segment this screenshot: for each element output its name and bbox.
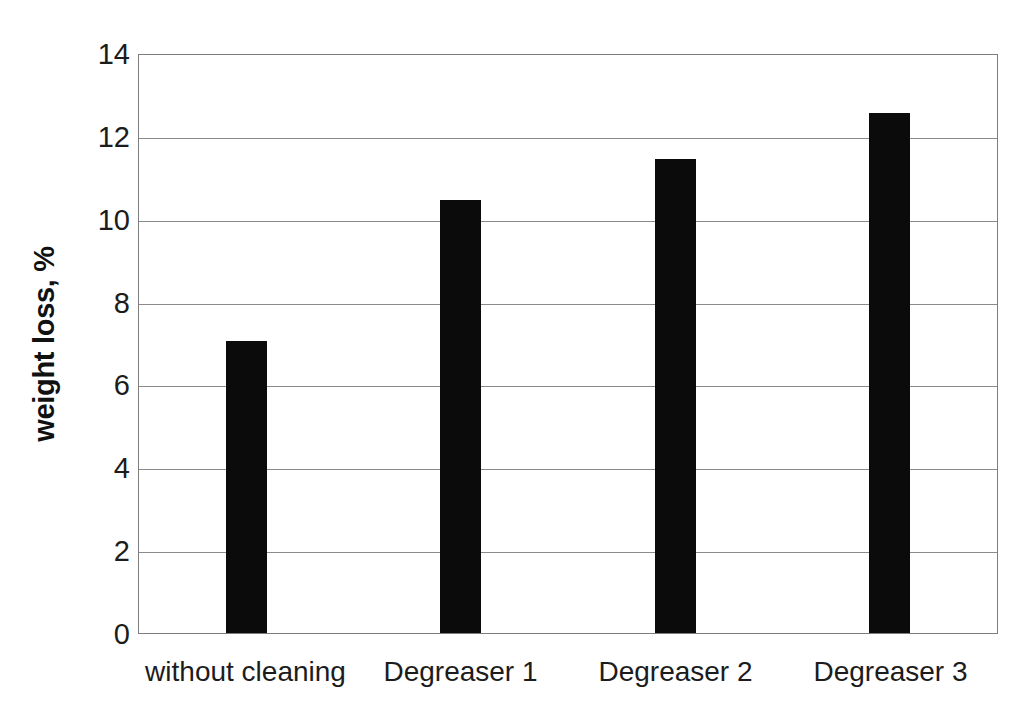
x-axis-tick-labels: without cleaningDegreaser 1Degreaser 2De… <box>138 648 998 696</box>
bar-slot <box>568 55 783 633</box>
y-tick-label: 10 <box>72 205 130 234</box>
bar-slot <box>354 55 569 633</box>
y-tick-label: 8 <box>72 288 130 317</box>
y-tick-label: 2 <box>72 537 130 566</box>
y-tick-label: 14 <box>72 40 130 69</box>
y-axis-tick-labels: 02468101214 <box>72 54 130 634</box>
bar[interactable] <box>869 113 910 633</box>
bar-slot <box>783 55 998 633</box>
bar[interactable] <box>226 341 267 633</box>
plot-area <box>138 54 998 634</box>
bar-slot <box>139 55 354 633</box>
bar[interactable] <box>440 200 481 633</box>
y-axis-title: weight loss, % <box>22 54 66 634</box>
y-tick-label: 12 <box>72 122 130 151</box>
x-tick-label: Degreaser 2 <box>568 648 783 696</box>
bar-series <box>139 55 997 633</box>
bar[interactable] <box>655 159 696 633</box>
y-tick-label: 0 <box>72 620 130 649</box>
x-tick-label: without cleaning <box>138 648 353 696</box>
y-tick-label: 6 <box>72 371 130 400</box>
x-tick-label: Degreaser 1 <box>353 648 568 696</box>
x-tick-label: Degreaser 3 <box>783 648 998 696</box>
y-tick-label: 4 <box>72 454 130 483</box>
bar-chart-figure: weight loss, % 02468101214 without clean… <box>0 0 1035 719</box>
